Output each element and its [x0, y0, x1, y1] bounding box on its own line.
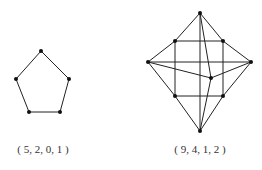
vertex — [39, 49, 43, 53]
vertex — [58, 110, 62, 114]
vertex — [209, 76, 213, 80]
vertex — [198, 129, 202, 133]
edge — [16, 51, 41, 79]
edge — [60, 79, 69, 112]
vertex — [146, 60, 150, 64]
pentagon-label: ( 5, 2, 0, 1 ) — [17, 143, 68, 155]
pentagon — [14, 49, 71, 114]
vertex — [221, 39, 225, 43]
edge — [200, 13, 211, 78]
edge — [175, 13, 200, 41]
vertex — [198, 11, 202, 15]
nine-vertex-graph — [146, 11, 253, 133]
edge — [41, 51, 69, 79]
edge — [16, 79, 29, 112]
edge — [200, 13, 223, 41]
edge — [148, 62, 211, 78]
vertex — [173, 94, 177, 98]
edge — [175, 96, 200, 131]
vertex — [14, 77, 18, 81]
nine-vertex-graph-label: ( 9, 4, 1, 2 ) — [174, 143, 225, 155]
edge — [148, 41, 175, 62]
vertex — [249, 60, 253, 64]
vertex — [27, 110, 31, 114]
edge — [223, 41, 251, 62]
vertex — [173, 39, 177, 43]
edge — [148, 62, 175, 96]
vertex — [67, 77, 71, 81]
vertex — [221, 94, 225, 98]
